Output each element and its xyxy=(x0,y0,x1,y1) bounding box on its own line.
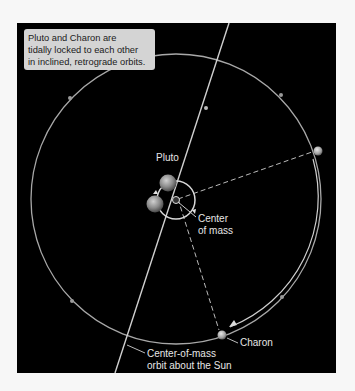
arrow-icon xyxy=(153,190,158,194)
arrow-icon xyxy=(229,320,237,327)
pluto-label: Pluto xyxy=(156,152,179,164)
charon-motion-arc xyxy=(230,159,318,327)
charon-sphere xyxy=(218,331,227,340)
caption-box: Pluto and Charon are tidally locked to e… xyxy=(24,29,155,70)
charon-sphere xyxy=(314,147,323,156)
sun-orbit-label-1: Center-of-mass xyxy=(147,348,216,360)
sun-orbit-leader-line xyxy=(127,345,145,353)
dashed-line-right xyxy=(178,152,312,199)
sun-orbit-label-2: orbit about the Sun xyxy=(147,360,232,372)
center-of-mass-label-1: Center xyxy=(198,213,228,225)
orbit-marker xyxy=(70,299,74,303)
orbit-marker xyxy=(204,106,208,110)
orbit-marker xyxy=(280,295,284,299)
pluto-sphere xyxy=(160,175,177,192)
charon-leader-line xyxy=(227,338,238,343)
center-of-mass-label-2: of mass xyxy=(198,225,233,237)
orbit-marker xyxy=(279,93,283,97)
orbit-marker xyxy=(68,96,72,100)
caption-line: Pluto and Charon are xyxy=(28,32,151,44)
caption-line: in inclined, retrograde orbits. xyxy=(28,56,151,68)
charon-label: Charon xyxy=(240,337,273,349)
sun-orbit-line xyxy=(115,23,229,373)
pluto-sphere xyxy=(147,196,164,213)
caption-line: tidally locked to each other xyxy=(28,44,151,56)
